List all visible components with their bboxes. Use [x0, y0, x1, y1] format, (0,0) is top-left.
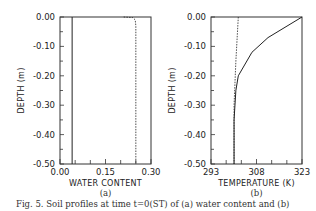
y-tick-label: -0.20 [184, 71, 206, 81]
figure: 0.00-0.10-0.20-0.30-0.40-0.500.000.150.3… [0, 0, 316, 211]
figure-caption: Fig. 5. Soil profiles at time t=0(ST) of… [16, 199, 289, 209]
x-tick-label: 323 [294, 167, 310, 177]
y-tick-label: -0.30 [184, 100, 206, 110]
y-tick-label: 0.00 [36, 12, 55, 22]
y-tick-label: -0.10 [33, 41, 55, 51]
y-tick-label: -0.20 [33, 71, 55, 81]
x-tick-label: 308 [248, 167, 264, 177]
x-tick-label: 0.30 [142, 167, 161, 177]
y-tick-label: -0.40 [184, 130, 206, 140]
series-solid [234, 17, 302, 164]
x-axis-label: WATER CONTENT [69, 179, 142, 188]
x-tick-label: 0.00 [51, 167, 70, 177]
y-tick-label: -0.40 [33, 130, 55, 140]
x-tick-label: 0.15 [96, 167, 115, 177]
y-tick-label: 0.00 [187, 12, 206, 22]
panel-label: (a) [100, 188, 112, 198]
y-axis-label: DEPTH (m) [168, 67, 177, 113]
panel-b: 0.00-0.10-0.20-0.30-0.40-0.50293308323TE… [168, 12, 310, 198]
y-tick-label: -0.30 [33, 100, 55, 110]
x-tick-label: 293 [203, 167, 219, 177]
y-tick-label: -0.10 [184, 41, 206, 51]
x-axis-label: TEMPERATURE (K) [217, 179, 295, 188]
panel-label: (b) [250, 188, 262, 198]
series-dashed [124, 17, 136, 164]
y-axis-label: DEPTH (m) [17, 67, 26, 113]
plot-frame [211, 17, 302, 164]
plot-frame [60, 17, 151, 164]
panel-a: 0.00-0.10-0.20-0.30-0.40-0.500.000.150.3… [17, 12, 160, 198]
